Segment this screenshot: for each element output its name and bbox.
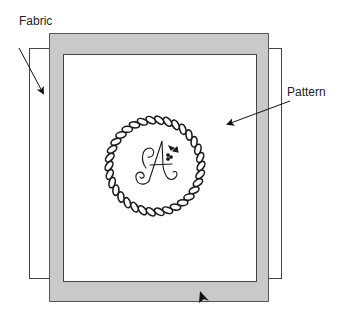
fabric-label: Fabric — [19, 14, 52, 28]
embroidery-hoop-diagram: Fabric Pattern — [0, 0, 345, 322]
pattern-label: Pattern — [287, 85, 326, 99]
pattern-area — [64, 55, 257, 282]
